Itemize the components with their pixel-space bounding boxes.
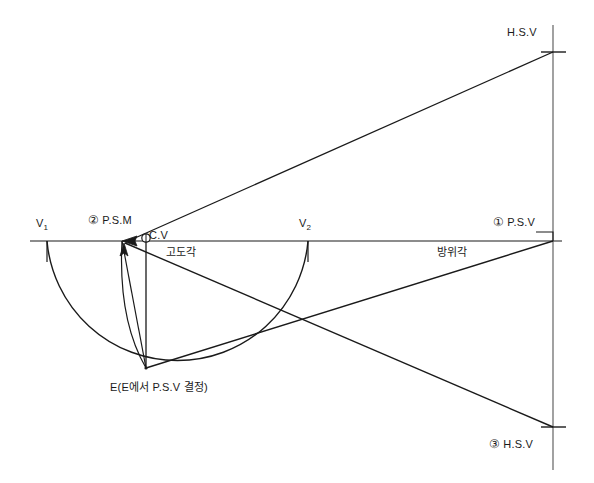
psm-text: P.S.M bbox=[102, 214, 132, 226]
label-psv-right: ① P.S.V bbox=[493, 216, 535, 229]
label-hsv-top: H.S.V bbox=[507, 26, 537, 39]
line-psm-to-e bbox=[122, 241, 146, 368]
psm-circled-number: ② bbox=[88, 213, 99, 227]
psv-text: P.S.V bbox=[507, 216, 535, 228]
label-hsv-bottom: ③ H.S.V bbox=[489, 438, 533, 451]
line-e-to-psv bbox=[146, 241, 553, 368]
label-psm: ② P.S.M bbox=[88, 214, 132, 227]
psv-angle-tick bbox=[536, 232, 553, 241]
v1-subscript: 1 bbox=[44, 223, 48, 232]
v2-subscript: 2 bbox=[307, 223, 311, 232]
psv-circled-number: ① bbox=[493, 215, 504, 229]
label-station-point: E(E에서 P.S.V 결정) bbox=[110, 381, 208, 394]
label-azimuth-angle: 방위각 bbox=[437, 246, 468, 259]
label-cv: C.V bbox=[149, 229, 168, 242]
diagram-canvas: H.S.V ① P.S.V ③ H.S.V V1 V2 ② P.S.M C.V … bbox=[0, 0, 594, 483]
hsv-bottom-circled-number: ③ bbox=[489, 437, 500, 451]
label-v1: V1 bbox=[36, 217, 48, 234]
label-v2: V2 bbox=[299, 217, 311, 234]
v2-text: V bbox=[299, 217, 307, 229]
line-cv-to-hsv-bottom bbox=[125, 243, 553, 427]
label-elevation-angle: 고도각 bbox=[166, 246, 197, 259]
diagram-svg bbox=[0, 0, 594, 483]
hsv-bottom-text: H.S.V bbox=[503, 438, 533, 450]
line-psm-to-hsv-top bbox=[126, 52, 553, 242]
e-point-marker bbox=[144, 366, 147, 369]
v1-text: V bbox=[36, 217, 44, 229]
